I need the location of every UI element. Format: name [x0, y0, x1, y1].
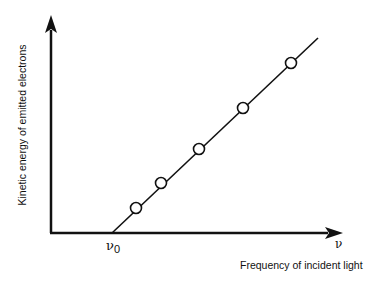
data-point-marker [156, 178, 167, 189]
x-axis-symbol: ν [335, 237, 342, 251]
data-point-marker [131, 203, 142, 214]
data-point-marker [286, 58, 297, 69]
threshold-frequency-label: ν0 [106, 238, 120, 255]
plot-area [0, 0, 387, 281]
x-axis-label: Frequency of incident light [240, 259, 363, 271]
y-axis [45, 15, 57, 233]
x-axis [50, 227, 343, 239]
data-point-marker [238, 103, 249, 114]
data-point-marker [194, 144, 205, 155]
y-axis-label: Kinetic energy of emitted electrons [16, 44, 28, 205]
